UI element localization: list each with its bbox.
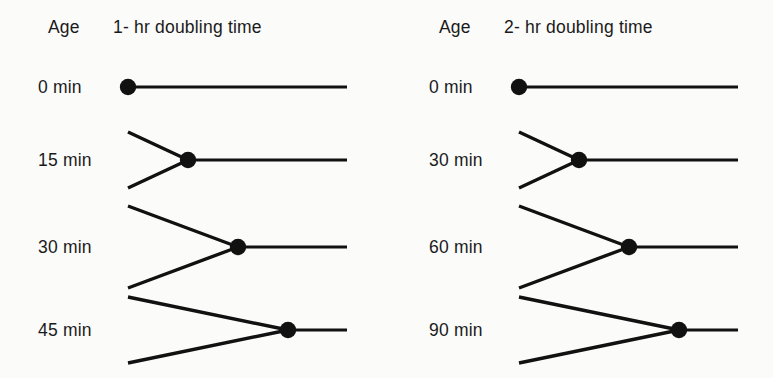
replication-fork-figure: Age 1- hr doubling time 0 min15 min30 mi… [0,0,773,378]
fork-arm-upper [519,206,629,247]
row-age-label: 30 min [429,150,483,171]
fork-arm-lower [128,160,188,188]
replication-fork-dot [671,322,687,338]
replication-fork-dot [230,239,246,255]
fork-arm-lower [128,330,288,363]
row-age-label: 30 min [38,237,92,258]
fork-arm-upper [128,132,188,160]
row-age-label: 45 min [38,320,92,341]
fork-arm-upper [128,206,238,247]
fork-arm-lower [519,247,629,288]
panel-one-hour-doubling: Age 1- hr doubling time 0 min15 min30 mi… [0,0,386,378]
fork-arm-upper [519,132,579,160]
row-age-label: 0 min [38,77,82,98]
replication-fork-dot [180,152,196,168]
replication-fork-dot [621,239,637,255]
row-age-label: 60 min [429,237,483,258]
origin-dot [511,79,527,95]
panel-two-hour-doubling: Age 2- hr doubling time 0 min30 min60 mi… [391,0,773,378]
fork-arm-lower [128,247,238,288]
fork-arm-upper [128,297,288,330]
replication-fork-dot [280,322,296,338]
origin-dot [120,79,136,95]
fork-arm-lower [519,330,679,363]
fork-arm-lower [519,160,579,188]
replication-fork-dot [571,152,587,168]
row-age-label: 15 min [38,150,92,171]
row-age-label: 0 min [429,77,473,98]
fork-arm-upper [519,297,679,330]
row-age-label: 90 min [429,320,483,341]
